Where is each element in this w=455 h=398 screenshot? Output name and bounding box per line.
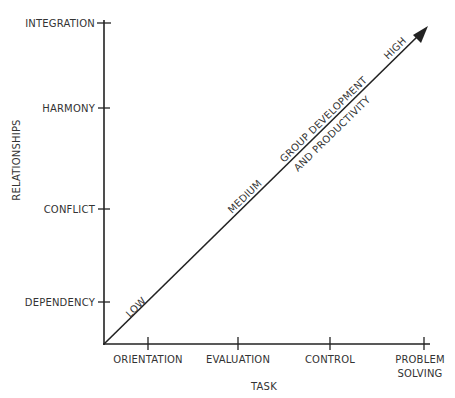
arrow-caption-line1: GROUP DEVELOPMENT xyxy=(278,74,370,165)
x-tick-problem: PROBLEM xyxy=(395,354,445,365)
development-arrow-line xyxy=(104,34,420,344)
y-tick-dependency: DEPENDENCY xyxy=(25,297,96,308)
x-tick-orientation: ORIENTATION xyxy=(113,354,183,365)
arrow-label-medium: MEDIUM xyxy=(226,178,264,216)
arrow-label-low: LOW xyxy=(124,295,149,319)
y-axis-title: RELATIONSHIPS xyxy=(11,119,22,200)
y-tick-harmony: HARMONY xyxy=(42,103,95,114)
arrow-head-icon xyxy=(413,26,428,43)
x-tick-control: CONTROL xyxy=(305,354,355,365)
x-axis-title: TASK xyxy=(250,381,277,392)
x-tick-solving: SOLVING xyxy=(397,368,442,379)
y-tick-integration: INTEGRATION xyxy=(25,18,95,29)
x-tick-evaluation: EVALUATION xyxy=(206,354,270,365)
y-tick-conflict: CONFLICT xyxy=(44,204,96,215)
group-development-diagram: INTEGRATION HARMONY CONFLICT DEPENDENCY … xyxy=(0,0,455,398)
